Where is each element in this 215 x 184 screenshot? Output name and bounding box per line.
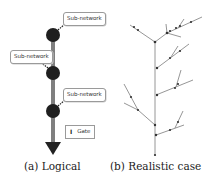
- callout-label: Sub-network: [67, 91, 102, 97]
- subnetwork-node: [46, 66, 60, 80]
- callout-label: Sub-network: [67, 15, 102, 21]
- subnetwork-node: [46, 28, 60, 42]
- tree-branches: [124, 17, 202, 156]
- arrow-down-icon: [45, 142, 61, 155]
- subnetwork-callout: Sub-network: [63, 88, 106, 102]
- realistic-tree-diagram: [105, 0, 215, 184]
- callout-label: Sub-network: [14, 53, 49, 59]
- caption-realistic: (b) Realistic case: [110, 160, 201, 172]
- subnetwork-callout: Sub-network: [10, 50, 53, 64]
- panel-logical: Sub-network Sub-network Sub-network I Ga…: [0, 0, 110, 184]
- panel-realistic: (b) Realistic case: [105, 0, 215, 184]
- gate-icon: I: [70, 129, 72, 135]
- subnetwork-node: [46, 104, 60, 118]
- gate-legend-label: Gate: [77, 129, 90, 135]
- gate-legend: I Gate: [65, 125, 95, 139]
- subnetwork-callout: Sub-network: [63, 12, 106, 26]
- caption-logical: (a) Logical: [24, 160, 81, 172]
- gate-markers: [130, 21, 192, 156]
